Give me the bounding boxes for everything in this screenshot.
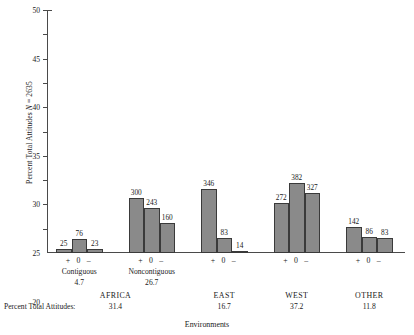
sign-axis-labels: + 0 – [272, 256, 323, 265]
bar [377, 238, 393, 253]
sign-axis-labels: + 0 – [54, 256, 105, 265]
y-axis-title: Percent Total Attitudes N = 2635 [25, 58, 34, 208]
bar-value-label: 327 [299, 183, 327, 192]
bar-value-label: 160 [154, 213, 182, 222]
bar-value-label: 243 [138, 198, 166, 207]
bar-value-label: 83 [211, 228, 239, 237]
bar-value-label: 142 [340, 217, 368, 226]
bar [232, 251, 248, 253]
bar [362, 237, 378, 253]
y-axis-title-text: Percent Total Attitudes [25, 110, 34, 184]
bar [87, 249, 103, 253]
plot-area: 5045403530252015105 25762330024316034683… [47, 10, 405, 253]
sign-axis-labels: + 0 – [199, 256, 250, 265]
bar [289, 183, 305, 253]
bar-value-label: 346 [195, 179, 223, 188]
bar [56, 249, 72, 253]
bar-value-label: 14 [226, 241, 254, 250]
x-axis-title: Environments [0, 320, 414, 329]
y-axis-tick-label: 50 [32, 6, 40, 15]
y-axis-tick-label: 40 [32, 103, 40, 112]
sign-axis-labels: + 0 – [127, 256, 178, 265]
y-axis-tick: 35 [43, 83, 48, 84]
bar [160, 223, 176, 253]
y-axis-tick: 5 [43, 229, 48, 230]
environment-name: AFRICA [36, 291, 195, 300]
environment-name: UN [399, 291, 414, 300]
y-axis-tick-label: 30 [32, 200, 40, 209]
bar-value-label: 382 [283, 173, 311, 182]
y-axis-tick: 10 [43, 204, 48, 205]
y-axis-tick: 30 [43, 107, 48, 108]
y-axis-tick: 15 [43, 180, 48, 181]
y-axis-tick-label: 35 [32, 151, 40, 160]
subgroup-percent: 26.7 [107, 278, 198, 287]
bar-value-label: 23 [81, 239, 109, 248]
chart-figure: Percent Total Attitudes N = 2635 5045403… [0, 0, 414, 335]
bar-value-label: 83 [371, 228, 399, 237]
subgroup-name: Noncontiguous [107, 267, 198, 276]
sign-axis-labels: + 0 – [344, 256, 395, 265]
y-axis-tick: 50 [43, 10, 48, 11]
y-axis-tick-label: 25 [32, 249, 40, 258]
bar [274, 203, 290, 253]
y-axis-tick: 25 [43, 132, 48, 133]
bar [201, 189, 217, 253]
percent-total-attitudes-row-label: Percent Total Attitudes: [4, 302, 75, 311]
environment-percent: 2.8 [399, 302, 414, 311]
y-axis-tick: 20 [43, 156, 48, 157]
bar [305, 193, 321, 253]
y-axis-title-n-value: = 2635 [25, 81, 34, 105]
y-axis-tick: 40 [43, 59, 48, 60]
bar-value-label: 76 [66, 229, 94, 238]
y-axis-tick: 45 [43, 34, 48, 35]
y-axis-tick-label: 45 [32, 54, 40, 63]
bar-value-label: 300 [123, 188, 151, 197]
